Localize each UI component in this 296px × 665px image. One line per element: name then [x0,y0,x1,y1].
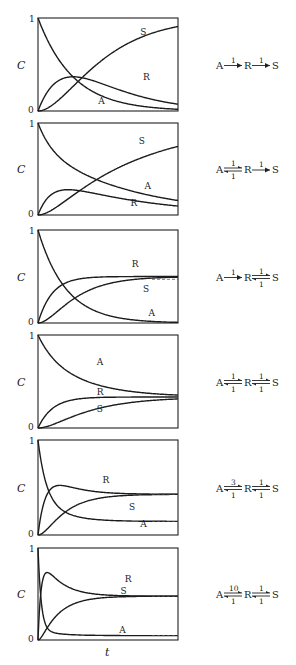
curve-R [38,573,178,641]
species-R: R [244,483,252,494]
curve-label-S: S [143,284,149,294]
species-S: S [272,164,279,175]
panel-2: 10CARSA11R1S [17,119,279,219]
curve-R [38,485,178,535]
species-A: A [215,483,224,494]
curve-label-R: R [143,72,150,82]
reaction-scheme: A11R1S [215,159,279,181]
species-R: R [244,377,252,388]
curve-label-A: A [148,308,156,318]
species-R: R [244,272,252,283]
species-A: A [215,589,224,600]
y-axis-label: C [17,59,26,72]
panel-4: 10CARSA11R11S [17,331,279,432]
curve-A [38,548,178,636]
curve-label-R: R [130,198,137,208]
plot-frame [38,335,178,428]
species-A: A [215,60,224,71]
curve-label-A: A [118,625,126,635]
species-S: S [272,377,279,388]
reaction-scheme: A11R11S [215,372,279,394]
curve-label-A: A [96,357,104,367]
curve-label-A: A [139,519,147,529]
y-tick-1: 1 [29,14,35,24]
y-axis-label: C [17,588,26,601]
rate-forward: 1 [231,159,236,168]
y-tick-0: 0 [28,317,34,327]
species-S: S [272,272,279,283]
rate-forward: 3 [231,478,236,487]
species-A: A [215,272,224,283]
curve-A [38,335,178,395]
curve-label-S: S [129,502,135,512]
y-tick-1: 1 [29,226,35,236]
y-tick-0: 0 [28,529,34,539]
rate-forward: 1 [231,372,236,381]
curve-R [38,397,178,428]
species-A: A [215,377,224,388]
y-tick-1: 1 [29,436,35,446]
curve-label-A: A [97,96,105,106]
rate-forward: 1 [259,478,264,487]
species-A: A [215,164,224,175]
species-S: S [272,60,279,71]
y-tick-0: 0 [28,634,34,644]
rate-forward: 1 [231,56,236,65]
y-tick-1: 1 [29,331,35,341]
curve-label-A: A [143,181,151,191]
curve-S [38,399,178,428]
y-tick-0: 0 [28,209,34,219]
rate-forward: 10 [229,584,239,593]
rate-reverse: 1 [259,491,264,500]
species-R: R [244,164,252,175]
rate-forward: 1 [259,56,264,65]
rate-reverse: 1 [259,597,264,606]
panel-5: 10CARSA31R11S [17,436,279,539]
plot-frame [38,123,178,215]
species-S: S [272,589,279,600]
x-axis-label: t [105,646,110,659]
kinetics-figure: 10CARSA1R1S10CARSA11R1S10CARSA1R11S10CAR… [0,0,296,665]
curve-R [38,190,178,215]
panel-1: 10CARSA1R1S [17,14,279,115]
rate-reverse: 1 [231,172,236,181]
curve-label-S: S [97,404,103,414]
y-axis-label: C [17,163,26,176]
curve-R [38,77,178,111]
curve-label-S: S [140,27,146,37]
panel-3: 10CARSA1R11S [17,226,279,327]
rate-forward: 1 [259,160,264,169]
curve-label-R: R [125,574,132,584]
curve-label-R: R [102,475,109,485]
reaction-scheme: A101R11S [215,584,279,606]
y-tick-1: 1 [29,119,35,129]
curve-label-R: R [132,259,139,269]
y-axis-label: C [17,271,26,284]
y-tick-1: 1 [29,544,35,554]
rate-forward: 1 [259,584,264,593]
rate-reverse: 1 [259,280,264,289]
curve-label-R: R [97,387,104,397]
y-axis-label: C [17,376,26,389]
curve-S [38,494,178,535]
curve-A [38,123,178,201]
y-axis-label: C [17,482,26,495]
rate-forward: 1 [259,267,264,276]
reaction-scheme: A1R11S [215,267,279,289]
y-tick-0: 0 [28,105,34,115]
plot-frame [38,548,178,640]
rate-reverse: 1 [231,597,236,606]
curve-label-S: S [121,586,127,596]
curve-label-S: S [139,136,145,146]
species-R: R [244,589,252,600]
species-R: R [244,60,252,71]
rate-reverse: 1 [231,385,236,394]
reaction-scheme: A1R1S [215,56,279,71]
rate-forward: 1 [259,372,264,381]
panel-6: 10CARSA101R11S [17,544,279,644]
rate-forward: 1 [231,268,236,277]
rate-reverse: 1 [231,491,236,500]
species-S: S [272,483,279,494]
rate-reverse: 1 [259,385,264,394]
reaction-scheme: A31R11S [215,478,279,500]
